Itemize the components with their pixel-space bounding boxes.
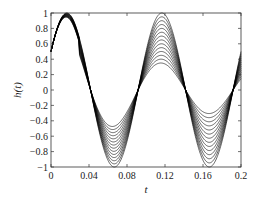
y-tick-label: −0.2 [30,100,48,111]
x-tick-label: 0.12 [156,170,174,181]
curve [51,17,241,133]
y-tick-label: 0.6 [36,38,49,49]
y-tick-label: 0.4 [36,54,49,65]
x-tick-label: 0.2 [235,170,248,181]
y-tick-label: 0.8 [36,23,49,34]
curve [51,16,241,139]
y-tick-label: 0.2 [36,69,49,80]
y-tick-label: 0 [43,85,48,96]
curve [51,13,241,167]
y-tick-label: −0.6 [30,131,48,142]
y-tick-label: −0.4 [30,115,48,126]
curve [51,14,241,158]
curve [51,16,241,142]
curve [51,15,241,148]
y-tick-label: −1 [37,162,48,173]
x-tick-label: 0.04 [80,170,98,181]
x-tick-label: 0.16 [194,170,212,181]
x-tick-label: 0 [49,170,54,181]
x-tick-label: 0.08 [118,170,136,181]
curve [51,15,241,152]
curve [51,15,241,145]
plot-frame [51,13,241,167]
y-axis: −1−0.8−0.6−0.4−0.200.20.40.60.81 [30,8,241,173]
curve [51,14,241,154]
y-tick-label: 1 [43,8,48,19]
curve [51,14,241,161]
y-tick-label: −0.8 [30,146,48,157]
chart: 00.040.080.120.160.2 −1−0.8−0.6−0.4−0.20… [0,0,259,201]
x-axis-label: t [144,183,148,195]
curve-family [51,13,241,167]
y-axis-label: h(t) [11,82,24,98]
